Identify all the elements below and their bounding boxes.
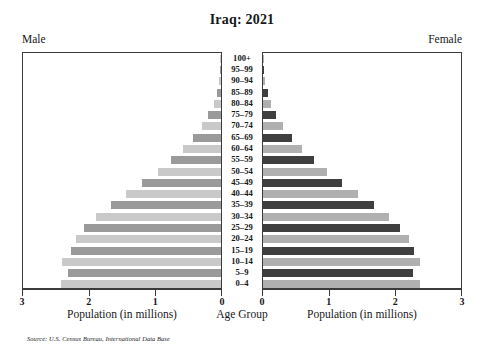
source-note: Source: U.S. Census Bureau, Internationa… xyxy=(27,335,170,342)
age-label-35–39: 35–39 xyxy=(222,200,262,208)
bar-male-95–99 xyxy=(220,66,221,74)
age-label-5–9: 5–9 xyxy=(222,268,262,276)
bar-female-45–49 xyxy=(263,179,342,187)
female-x-axis: 0123 xyxy=(262,289,462,297)
bar-male-85–89 xyxy=(217,89,221,97)
male-bars xyxy=(23,53,221,288)
bar-female-15–19 xyxy=(263,247,414,255)
bar-male-35–39 xyxy=(111,201,221,209)
bar-female-30–34 xyxy=(263,213,389,221)
tick-label-3: 3 xyxy=(20,296,25,307)
bar-male-60–64 xyxy=(183,145,221,153)
age-label-90–94: 90–94 xyxy=(222,76,262,84)
bar-female-0–4 xyxy=(263,280,420,288)
female-bars xyxy=(263,53,461,288)
bar-female-10–14 xyxy=(263,258,420,266)
chart-title: Iraq: 2021 xyxy=(0,12,484,28)
age-label-25–29: 25–29 xyxy=(222,223,262,231)
bar-male-55–59 xyxy=(171,156,221,164)
age-label-80–84: 80–84 xyxy=(222,99,262,107)
population-pyramid-chart: Iraq: 2021 Male Female 100+95–9990–9485–… xyxy=(0,0,484,357)
bar-female-5–9 xyxy=(263,269,413,277)
age-label-55–59: 55–59 xyxy=(222,155,262,163)
age-label-10–14: 10–14 xyxy=(222,257,262,265)
female-plot-panel xyxy=(262,52,462,289)
bar-female-40–44 xyxy=(263,190,358,198)
bar-male-50–54 xyxy=(158,168,221,176)
age-label-70–74: 70–74 xyxy=(222,121,262,129)
age-label-95–99: 95–99 xyxy=(222,65,262,73)
female-side-label: Female xyxy=(428,33,462,45)
bar-male-45–49 xyxy=(142,179,221,187)
bar-female-75–79 xyxy=(263,111,276,119)
male-x-axis: 3210 xyxy=(22,289,222,297)
tick-label-2: 2 xyxy=(86,296,91,307)
bar-female-70–74 xyxy=(263,122,283,130)
tick-label-1: 1 xyxy=(153,296,158,307)
age-label-30–34: 30–34 xyxy=(222,212,262,220)
male-side-label: Male xyxy=(22,33,46,45)
tick-label-0: 0 xyxy=(260,296,265,307)
age-label-65–69: 65–69 xyxy=(222,133,262,141)
age-label-15–19: 15–19 xyxy=(222,246,262,254)
bar-male-75–79 xyxy=(208,111,221,119)
bar-male-10–14 xyxy=(62,258,221,266)
bar-female-60–64 xyxy=(263,145,302,153)
age-label-85–89: 85–89 xyxy=(222,88,262,96)
bar-male-65–69 xyxy=(193,134,221,142)
age-label-50–54: 50–54 xyxy=(222,167,262,175)
male-plot-panel xyxy=(22,52,222,289)
bar-male-30–34 xyxy=(96,213,221,221)
bar-male-15–19 xyxy=(71,247,221,255)
bar-female-25–29 xyxy=(263,224,400,232)
tick-label-0: 0 xyxy=(220,296,225,307)
bar-male-90–94 xyxy=(219,77,221,85)
bar-male-5–9 xyxy=(68,269,221,277)
age-label-100+: 100+ xyxy=(222,54,262,62)
age-label-0–4: 0–4 xyxy=(222,279,262,287)
male-axis-caption: Population (in millions) xyxy=(22,308,222,320)
bar-male-70–74 xyxy=(202,122,221,130)
bar-female-95–99 xyxy=(263,66,264,74)
tick-label-1: 1 xyxy=(326,296,331,307)
bar-female-50–54 xyxy=(263,168,327,176)
bar-male-100+ xyxy=(220,55,221,63)
bar-female-85–89 xyxy=(263,89,268,97)
bar-female-80–84 xyxy=(263,100,271,108)
age-label-60–64: 60–64 xyxy=(222,144,262,152)
bar-female-90–94 xyxy=(263,77,265,85)
bar-male-20–24 xyxy=(76,235,221,243)
tick-label-3: 3 xyxy=(460,296,465,307)
age-label-20–24: 20–24 xyxy=(222,234,262,242)
bar-female-35–39 xyxy=(263,201,374,209)
bar-male-40–44 xyxy=(126,190,221,198)
bar-male-80–84 xyxy=(214,100,221,108)
bar-female-65–69 xyxy=(263,134,292,142)
bar-male-0–4 xyxy=(61,280,221,288)
bar-female-100+ xyxy=(263,55,264,63)
female-axis-caption: Population (in millions) xyxy=(262,308,462,320)
age-label-40–44: 40–44 xyxy=(222,189,262,197)
bar-male-25–29 xyxy=(84,224,221,232)
bar-female-55–59 xyxy=(263,156,314,164)
age-label-75–79: 75–79 xyxy=(222,110,262,118)
age-group-axis: 100+95–9990–9485–8980–8475–7970–7465–696… xyxy=(222,52,262,289)
tick-label-2: 2 xyxy=(393,296,398,307)
bar-female-20–24 xyxy=(263,235,409,243)
age-label-45–49: 45–49 xyxy=(222,178,262,186)
